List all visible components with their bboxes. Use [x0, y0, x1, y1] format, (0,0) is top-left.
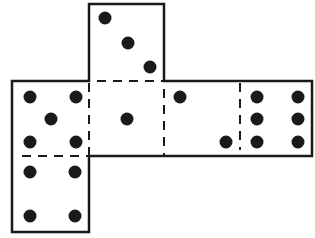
face-center-1-pips [121, 113, 134, 126]
face-left-5-pips [24, 91, 83, 149]
pip-dot [251, 113, 264, 126]
face-far-right-6-pips [251, 91, 305, 149]
pip-dot [144, 61, 157, 74]
pip-dot [121, 113, 134, 126]
dice-net-diagram [0, 0, 315, 238]
pip-dot [69, 166, 82, 179]
pip-dot [70, 136, 83, 149]
pip-dot [24, 166, 37, 179]
pip-dot [24, 210, 37, 223]
pip-dot [292, 113, 305, 126]
pip-dot [69, 210, 82, 223]
pip-dot [122, 37, 135, 50]
face-right-2-pips [174, 91, 233, 149]
pip-dot [24, 91, 37, 104]
pip-dot [292, 91, 305, 104]
pip-dot [24, 136, 37, 149]
face-top-3-pips [99, 12, 157, 74]
pip-dot [70, 91, 83, 104]
pip-dot [220, 136, 233, 149]
face-bottom-4-pips [24, 166, 82, 223]
pip-dot [251, 91, 264, 104]
pip-dot [99, 12, 112, 25]
pip-dot [251, 136, 264, 149]
pip-dot [174, 91, 187, 104]
pip-dot [292, 136, 305, 149]
pip-dot [45, 113, 58, 126]
